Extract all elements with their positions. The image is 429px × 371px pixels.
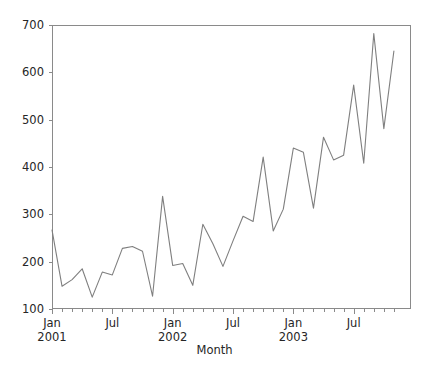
y-tick-label: 100 <box>4 302 44 316</box>
x-tick-year-label: 2003 <box>279 330 308 344</box>
x-minor-tick-mark <box>183 309 184 312</box>
x-minor-tick-mark <box>143 309 144 312</box>
y-tick-mark <box>49 120 53 121</box>
y-tick-mark <box>49 25 53 26</box>
chart-figure: 100200300400500600700 Jan2001JulJan2002J… <box>0 0 429 371</box>
data-series-line <box>52 25 411 309</box>
y-axis-tick-labels: 100200300400500600700 <box>0 0 44 371</box>
x-minor-tick-mark <box>122 309 123 312</box>
y-tick-label: 500 <box>4 113 44 127</box>
x-minor-tick-mark <box>283 309 284 312</box>
x-minor-tick-mark <box>72 309 73 312</box>
y-tick-mark <box>49 214 53 215</box>
x-minor-tick-mark <box>213 309 214 312</box>
x-minor-tick-mark <box>132 309 133 312</box>
x-minor-tick-mark <box>374 309 375 312</box>
x-tick-label: Jul <box>347 316 361 330</box>
x-minor-tick-mark <box>92 309 93 312</box>
y-tick-label: 200 <box>4 255 44 269</box>
x-major-tick-mark <box>233 309 234 314</box>
x-axis-label: Month <box>0 343 429 357</box>
x-tick-label: Jul <box>226 316 240 330</box>
x-minor-tick-mark <box>303 309 304 312</box>
x-tick-label: Jul <box>105 316 119 330</box>
x-minor-tick-mark <box>223 309 224 312</box>
x-minor-tick-mark <box>263 309 264 312</box>
x-minor-tick-mark <box>62 309 63 312</box>
x-minor-tick-mark <box>253 309 254 312</box>
x-tick-label: Jan <box>43 316 61 330</box>
x-minor-tick-mark <box>324 309 325 312</box>
x-major-tick-mark <box>354 309 355 314</box>
y-tick-label: 700 <box>4 18 44 32</box>
x-major-tick-mark <box>173 309 174 314</box>
x-minor-tick-mark <box>394 309 395 312</box>
x-minor-tick-mark <box>364 309 365 312</box>
x-major-tick-mark <box>293 309 294 314</box>
x-tick-label: Jan <box>164 316 182 330</box>
y-tick-label: 300 <box>4 207 44 221</box>
x-major-tick-mark <box>112 309 113 314</box>
x-minor-tick-mark <box>273 309 274 312</box>
x-tick-label: Jan <box>284 316 302 330</box>
x-minor-tick-mark <box>344 309 345 312</box>
x-minor-tick-mark <box>193 309 194 312</box>
x-minor-tick-mark <box>313 309 314 312</box>
y-tick-mark <box>49 262 53 263</box>
x-tick-year-label: 2001 <box>37 330 66 344</box>
series-polyline <box>52 34 394 298</box>
x-minor-tick-mark <box>163 309 164 312</box>
x-major-tick-mark <box>52 309 53 314</box>
x-minor-tick-mark <box>384 309 385 312</box>
plot-area <box>52 25 411 309</box>
x-minor-tick-mark <box>243 309 244 312</box>
y-tick-label: 600 <box>4 65 44 79</box>
y-tick-label: 400 <box>4 160 44 174</box>
x-minor-tick-mark <box>153 309 154 312</box>
x-minor-tick-mark <box>102 309 103 312</box>
x-minor-tick-mark <box>203 309 204 312</box>
y-tick-mark <box>49 72 53 73</box>
x-minor-tick-mark <box>82 309 83 312</box>
y-tick-mark <box>49 167 53 168</box>
x-minor-tick-mark <box>334 309 335 312</box>
x-tick-year-label: 2002 <box>158 330 187 344</box>
